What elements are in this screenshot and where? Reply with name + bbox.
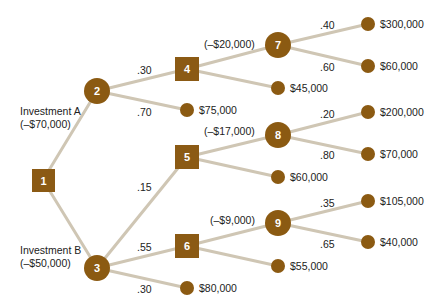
terminal-t8a: [361, 105, 375, 119]
chance-node-2: 2: [84, 78, 110, 104]
payoff-t9b: $40,000: [380, 236, 418, 248]
prob-8-a: .20: [320, 108, 335, 120]
terminal-t4: [271, 81, 285, 95]
svg-text:2: 2: [94, 85, 100, 97]
terminal-nodes: [180, 17, 375, 295]
svg-text:5: 5: [184, 151, 190, 163]
cost-label-9: (–$9,000): [210, 214, 255, 226]
prob-7-b: .60: [320, 61, 335, 73]
terminal-t6: [271, 259, 285, 273]
prob-8-b: .80: [320, 149, 335, 161]
prob-9-b: .65: [320, 238, 335, 250]
prob-2-t: .70: [137, 106, 152, 118]
decision-tree: 1 4 5 6 2 3 7 8 9: [0, 0, 440, 303]
decision-node-4: 4: [175, 57, 199, 81]
payoff-t8b: $70,000: [380, 148, 418, 160]
investment-b-label: Investment B: [20, 244, 81, 256]
terminal-t5: [271, 170, 285, 184]
svg-text:8: 8: [275, 129, 281, 141]
terminal-t9a: [361, 194, 375, 208]
prob-2-4: .30: [137, 64, 152, 76]
terminal-t3: [180, 281, 194, 295]
payoff-t7a: $300,000: [380, 18, 424, 30]
chance-node-8: 8: [265, 122, 291, 148]
payoff-t7b: $60,000: [380, 60, 418, 72]
terminal-t9b: [361, 235, 375, 249]
svg-text:3: 3: [94, 262, 100, 274]
payoff-t4: $45,000: [290, 82, 328, 94]
terminal-t8b: [361, 147, 375, 161]
svg-text:6: 6: [184, 240, 190, 252]
edge-6-9: [187, 223, 278, 246]
prob-7-a: .40: [320, 19, 335, 31]
terminal-t2: [180, 103, 194, 117]
payoff-t5: $60,000: [290, 171, 328, 183]
svg-text:7: 7: [275, 39, 281, 51]
investment-b-cost: (–$50,000): [20, 257, 71, 269]
decision-node-5: 5: [175, 145, 199, 169]
decision-node-6: 6: [175, 234, 199, 258]
prob-9-a: .35: [320, 197, 335, 209]
terminal-t7a: [361, 17, 375, 31]
decision-node-1: 1: [32, 169, 55, 192]
payoff-t3: $80,000: [199, 282, 237, 294]
chance-node-3: 3: [84, 255, 110, 281]
edge-4-t4: [187, 69, 278, 88]
svg-text:1: 1: [40, 175, 46, 187]
svg-text:9: 9: [275, 217, 281, 229]
prob-3-t: .30: [137, 283, 152, 295]
prob-3-6: .55: [137, 241, 152, 253]
payoff-t6: $55,000: [290, 260, 328, 272]
cost-label-8: (–$17,000): [204, 125, 255, 137]
edge-5-t5: [187, 157, 278, 177]
investment-a-cost: (–$70,000): [20, 118, 71, 130]
investment-a-label: Investment A: [20, 105, 81, 117]
payoff-t9a: $105,000: [380, 195, 424, 207]
cost-label-7: (–$20,000): [204, 38, 255, 50]
payoff-t8a: $200,000: [380, 106, 424, 118]
payoff-t2: $75,000: [199, 104, 237, 116]
chance-node-9: 9: [265, 210, 291, 236]
svg-text:4: 4: [184, 63, 191, 75]
edge-5-8: [187, 135, 278, 157]
prob-3-5: .15: [137, 181, 152, 193]
edge-6-t6: [187, 246, 278, 266]
terminal-t7b: [361, 59, 375, 73]
chance-node-7: 7: [265, 32, 291, 58]
